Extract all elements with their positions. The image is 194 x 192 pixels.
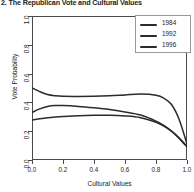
x-tick-label: 0.0 [19,166,45,175]
y-tick-label: 0.8 [8,41,27,49]
figure-container: 2. The Republican Vote and Cultural Valu… [0,0,194,192]
x-tick-mark [63,160,64,164]
y-tick-mark [28,45,32,46]
x-tick-mark [32,160,33,164]
y-tick-label: 0.2 [8,127,27,135]
y-tick-mark [28,102,32,103]
x-tick-mark [187,160,188,164]
y-tick-label: 1.0 [8,12,27,20]
y-tick-mark [28,16,32,17]
legend-line-swatch [140,35,157,37]
y-tick-label: 0.4 [8,98,27,106]
legend-box: 198419921996 [135,15,191,53]
series-line-1984 [32,88,187,144]
x-axis-label: Cultural Values [32,180,187,187]
x-tick-mark [156,160,157,164]
legend-item-1984: 1984 [140,20,188,30]
legend-label: 1984 [162,19,176,26]
x-tick-label: 0.4 [81,166,107,175]
series-line-1996 [32,115,187,146]
legend-line-swatch [140,24,157,26]
x-tick-label: 1.0 [174,166,194,175]
y-tick-label: 0.6 [8,70,27,78]
legend-item-1992: 1992 [140,31,188,41]
legend-label: 1992 [162,30,176,37]
x-tick-mark [94,160,95,164]
legend-line-swatch [140,46,157,48]
y-tick-mark [28,131,32,132]
x-tick-label: 0.6 [112,166,138,175]
chart-title: 2. The Republican Vote and Cultural Valu… [1,0,193,7]
legend-label: 1996 [162,41,176,48]
x-tick-mark [125,160,126,164]
x-tick-label: 0.2 [50,166,76,175]
y-tick-label: 0.0 [8,156,27,164]
y-tick-mark [28,74,32,75]
legend-item-1996: 1996 [140,42,188,52]
x-tick-label: 0.8 [143,166,169,175]
